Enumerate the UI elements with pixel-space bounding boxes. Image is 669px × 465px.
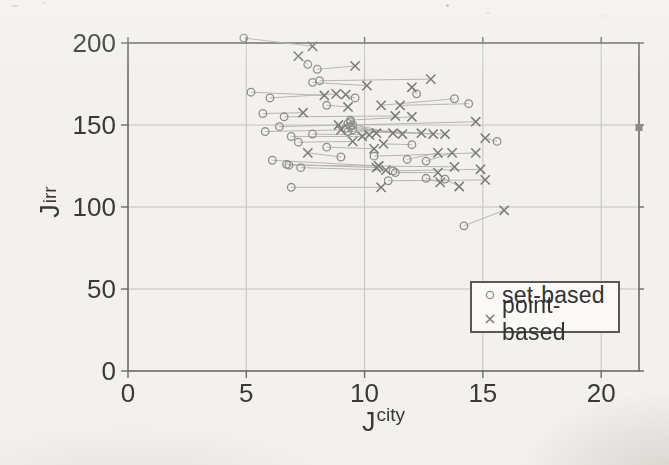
pair-connector [350, 117, 412, 120]
point-based-marker [294, 52, 303, 61]
y-tick-label: 50 [87, 274, 116, 304]
scan-artifact [12, 5, 18, 7]
scan-artifact [42, 2, 45, 4]
circle-marker-icon [478, 286, 502, 304]
pair-connector [327, 147, 374, 149]
x-tick-label: 10 [350, 378, 379, 408]
point-based-marker [455, 182, 464, 191]
pair-connector [308, 153, 341, 157]
y-tick-label: 150 [73, 110, 116, 140]
x-axis-label-superscript: city [377, 404, 406, 425]
set-based-marker [351, 94, 359, 102]
tick-labels: 05010015020005101520 [73, 28, 616, 408]
point-based-marker [448, 148, 457, 157]
edge-square-marker [636, 124, 643, 131]
scatter-plot: 05010015020005101520 [0, 0, 669, 465]
point-based-marker [398, 129, 407, 138]
x-axis-label: Jcity [128, 407, 639, 438]
x-tick-label: 20 [587, 378, 616, 408]
x-axis-label-base: J [362, 407, 376, 437]
y-axis-label-base: J [35, 204, 66, 218]
point-based-series [294, 42, 509, 215]
scan-artifact [602, 15, 604, 17]
y-axis-label: Jirr [20, 160, 80, 244]
x-marker-icon [478, 310, 502, 328]
legend-label-point-based: point-based [502, 292, 618, 346]
point-based-marker [481, 134, 490, 143]
point-based-marker [407, 83, 416, 92]
scan-artifact [487, 12, 489, 14]
x-tick-label: 0 [121, 378, 135, 408]
pair-connector [284, 116, 395, 117]
pair-connector [400, 104, 469, 106]
pair-connector [298, 141, 352, 142]
point-based-marker [433, 148, 442, 157]
legend: set-based point-based [470, 281, 620, 333]
pair-connector [244, 38, 313, 46]
point-based-marker [341, 90, 350, 99]
pair-connector [317, 66, 355, 69]
x-tick-label: 5 [239, 378, 253, 408]
pair-connector-lines [244, 38, 504, 226]
pair-connector [320, 79, 431, 81]
x-tick-label: 15 [468, 378, 497, 408]
y-tick-label: 200 [73, 28, 116, 58]
pair-connector [464, 210, 504, 226]
pair-connector [265, 130, 341, 132]
y-tick-label: 0 [102, 356, 116, 386]
pair-connector [301, 168, 386, 170]
scan-artifact [446, 4, 449, 7]
pair-connector [388, 180, 485, 181]
set-based-marker [304, 61, 312, 69]
figure: 05010015020005101520 Jirr Jcity set-base… [0, 0, 669, 465]
legend-entry-point-based: point-based [478, 308, 618, 331]
plot-canvas: 05010015020005101520 [0, 0, 669, 465]
